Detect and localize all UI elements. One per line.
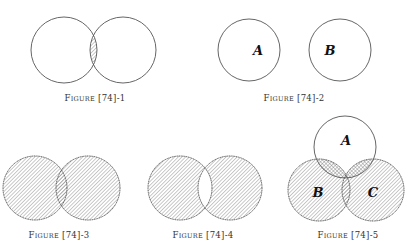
figure-caption: FIGURE [74]-3: [28, 230, 89, 240]
label-c: C: [368, 185, 379, 200]
figure-74-1: FIGURE [74]-1: [31, 17, 156, 103]
circle-a: [218, 19, 280, 81]
label-b: B: [324, 43, 336, 58]
label-a: A: [339, 133, 351, 148]
venn-diagram-page: FIGURE [74]-1 A B FIGURE [74]-2 FIGURE […: [0, 0, 408, 251]
figure-caption: FIGURE [74]-1: [64, 93, 125, 103]
figure-caption: FIGURE [74]-5: [317, 230, 378, 240]
figure-74-5: A B C FIGURE [74]-5: [288, 116, 404, 240]
label-a: A: [251, 43, 263, 58]
figure-caption: FIGURE [74]-4: [172, 230, 233, 240]
circle-b: [309, 19, 371, 81]
circle-right: [90, 17, 156, 83]
figure-74-2: A B FIGURE [74]-2: [218, 19, 371, 103]
figure-caption: FIGURE [74]-2: [263, 93, 324, 103]
label-b: B: [312, 185, 324, 200]
figure-74-3: FIGURE [74]-3: [3, 156, 120, 240]
circle-left: [31, 17, 97, 83]
figure-74-4: FIGURE [74]-4: [148, 156, 262, 240]
